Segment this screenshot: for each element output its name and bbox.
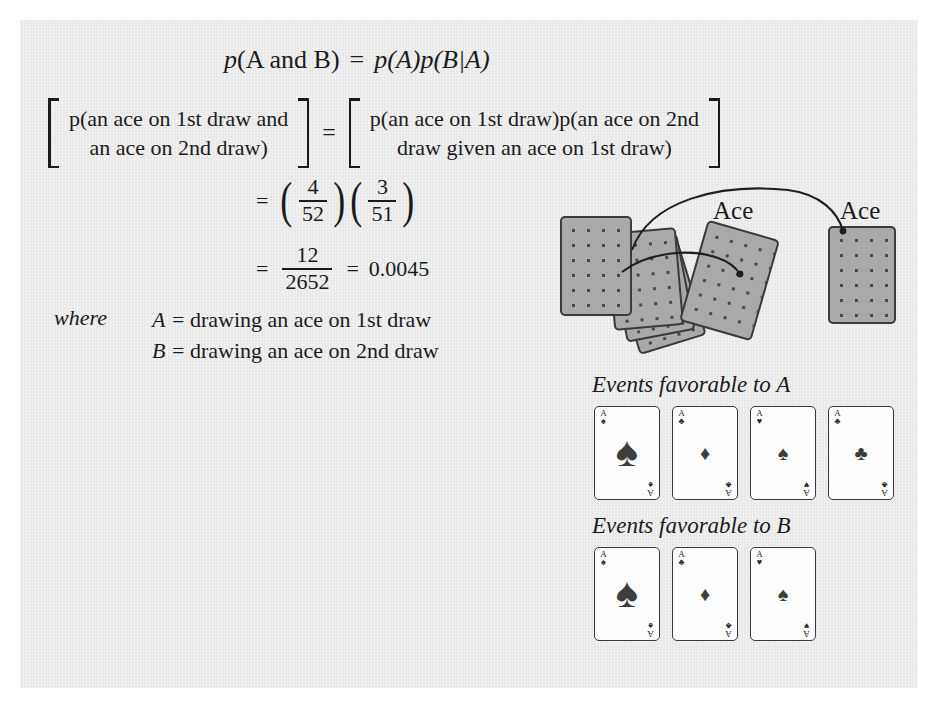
card-center-suit-icon: ♣	[829, 443, 893, 463]
spades-pip-icon: ♠	[646, 480, 655, 489]
events-a-card-3[interactable]: A♥♠A♥	[750, 406, 816, 500]
events-b-card-3[interactable]: A♥♠A♥	[750, 547, 816, 641]
events-a-card-4[interactable]: A♣♣A♣	[828, 406, 894, 500]
card-center-suit-icon: ♦	[673, 584, 737, 604]
events-favorable-b-title: Events favorable to B	[592, 513, 791, 539]
clubs-pip-icon: ♣	[833, 417, 842, 426]
card-index-top: A♠	[599, 550, 608, 567]
card-index-bottom: A♥	[802, 480, 811, 497]
arrow-head-first	[737, 271, 744, 278]
arrow-to-first-draw	[622, 253, 740, 274]
card-index-top: A♣	[677, 550, 686, 567]
hearts-pip-icon: ♥	[802, 480, 811, 489]
card-center-suit-icon: ♠	[751, 584, 815, 604]
events-favorable-a-title: Events favorable to A	[592, 372, 790, 398]
events-favorable-a-cards: A♠♠A♠A♣♦A♣A♥♠A♥A♣♣A♣	[594, 406, 906, 500]
card-index-top: A♥	[755, 550, 764, 567]
card-index-bottom: A♣	[880, 480, 889, 497]
spades-pip-icon: ♠	[599, 558, 608, 567]
card-index-top: A♣	[677, 409, 686, 426]
hearts-pip-icon: ♥	[755, 558, 764, 567]
arrow-to-second-draw	[632, 188, 843, 250]
arrow-head-second	[840, 228, 847, 235]
card-index-bottom: A♥	[802, 621, 811, 638]
card-center-suit-icon: ♠	[595, 431, 659, 473]
clubs-pip-icon: ♣	[724, 621, 733, 630]
card-center-suit-icon: ♠	[595, 572, 659, 614]
card-center-suit-icon: ♠	[751, 443, 815, 463]
events-a-card-2[interactable]: A♣♦A♣	[672, 406, 738, 500]
events-b-card-2[interactable]: A♣♦A♣	[672, 547, 738, 641]
hearts-pip-icon: ♥	[802, 621, 811, 630]
spades-pip-icon: ♠	[646, 621, 655, 630]
card-index-bottom: A♣	[724, 480, 733, 497]
card-index-bottom: A♠	[646, 480, 655, 497]
card-index-bottom: A♠	[646, 621, 655, 638]
spades-pip-icon: ♠	[599, 417, 608, 426]
card-index-top: A♠	[599, 409, 608, 426]
clubs-pip-icon: ♣	[724, 480, 733, 489]
card-center-suit-icon: ♦	[673, 443, 737, 463]
clubs-pip-icon: ♣	[677, 558, 686, 567]
card-index-top: A♣	[833, 409, 842, 426]
card-index-top: A♥	[755, 409, 764, 426]
probability-figure: p(A and B)=p(A)p(B|A) p(an ace on 1st dr…	[0, 0, 938, 712]
clubs-pip-icon: ♣	[880, 480, 889, 489]
hearts-pip-icon: ♥	[755, 417, 764, 426]
events-a-card-1[interactable]: A♠♠A♠	[594, 406, 660, 500]
events-b-card-1[interactable]: A♠♠A♠	[594, 547, 660, 641]
events-favorable-b-cards: A♠♠A♠A♣♦A♣A♥♠A♥	[594, 547, 828, 641]
card-index-bottom: A♣	[724, 621, 733, 638]
clubs-pip-icon: ♣	[677, 417, 686, 426]
